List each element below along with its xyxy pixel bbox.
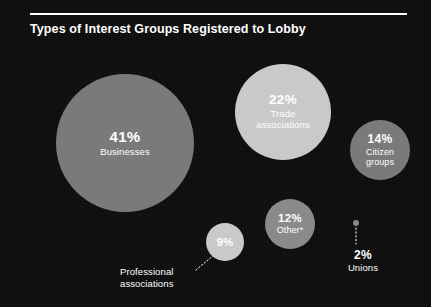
bubble-other-percent: 12%	[278, 212, 302, 224]
bubble-other-label: Other*	[277, 225, 304, 235]
bubble-trade-label-line1: Trade	[271, 108, 296, 119]
bubble-businesses-label: Businesses	[100, 147, 150, 158]
bubble-citizen-percent: 14%	[368, 133, 393, 146]
bubble-businesses[interactable]: 41% Businesses	[56, 74, 194, 212]
callout-professional-line1: Professional	[120, 266, 173, 277]
bubble-businesses-percent: 41%	[110, 129, 141, 145]
bubble-trade-label-line2: associations	[256, 119, 309, 130]
bubble-trade-label: Trade associations	[256, 109, 309, 130]
bubble-citizen-groups[interactable]: 14% Citizen groups	[350, 120, 410, 180]
title-rule-divider	[30, 13, 407, 15]
bubble-citizen-label: Citizen groups	[366, 147, 394, 167]
callout-unions-label: Unions	[333, 262, 393, 273]
bubble-citizen-label-line2: groups	[366, 157, 394, 167]
bubble-citizen-label-line1: Citizen	[366, 147, 394, 157]
bubble-professional-associations[interactable]: 9%	[206, 223, 244, 261]
callout-unions-percent: 2%	[333, 248, 393, 262]
page-title: Types of Interest Groups Registered to L…	[30, 22, 420, 37]
bubble-trade-percent: 22%	[269, 93, 297, 107]
bubble-trade-associations[interactable]: 22% Trade associations	[235, 64, 331, 160]
callout-professional-line2: associations	[120, 278, 173, 289]
bubble-unions[interactable]	[353, 220, 359, 226]
bubble-other[interactable]: 12% Other*	[265, 199, 315, 249]
callout-label-unions: 2% Unions	[333, 248, 393, 273]
bubble-professional-percent: 9%	[216, 236, 233, 248]
bubble-chart-figure: Types of Interest Groups Registered to L…	[0, 0, 431, 307]
callout-label-professional-associations: Professional associations	[120, 266, 230, 289]
